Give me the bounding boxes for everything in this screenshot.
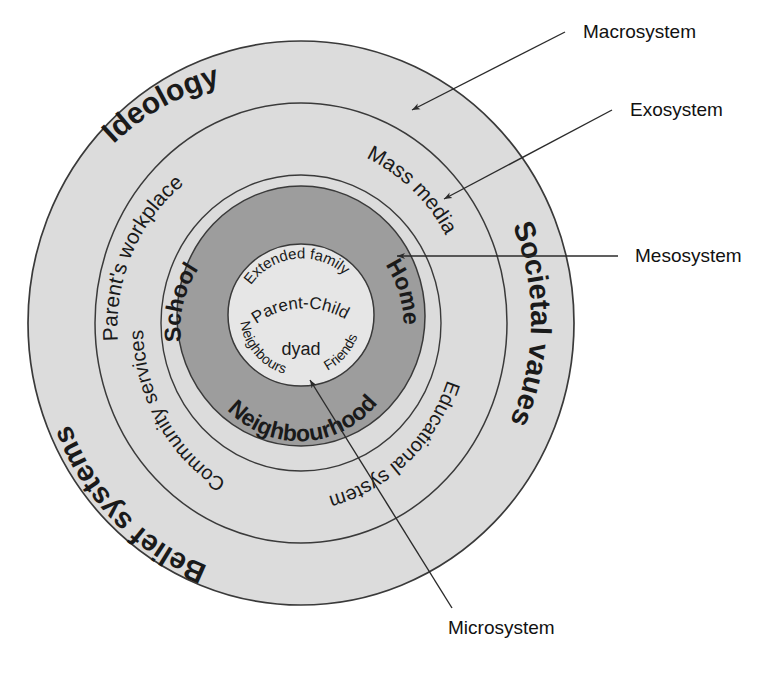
core-label-dyad: dyad <box>281 339 320 359</box>
leader-line-macrosystem <box>412 32 565 110</box>
ecological-systems-diagram: Ideology Societal vaues Belief systems P… <box>0 0 780 674</box>
callout-label-exosystem: Exosystem <box>630 99 723 120</box>
callout-label-macrosystem: Macrosystem <box>583 21 696 42</box>
callout-label-mesosystem: Mesosystem <box>635 245 742 266</box>
callout-label-microsystem: Microsystem <box>448 617 555 638</box>
diagram-canvas: Ideology Societal vaues Belief systems P… <box>0 0 780 674</box>
